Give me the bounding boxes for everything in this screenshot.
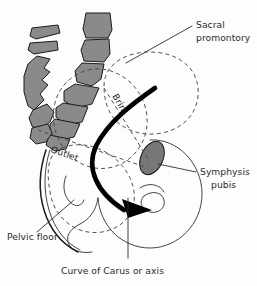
spinous-process-second <box>28 41 58 54</box>
label-symphysis-pubis-line2: pubis <box>211 179 236 190</box>
label-pelvic-floor: Pelvic floor <box>7 231 58 242</box>
vertebra-body-top <box>83 13 112 38</box>
symphysis-pubis-shape <box>135 138 169 179</box>
label-sacral-promontory-line2: promontory <box>196 32 251 43</box>
spinous-process-lamina <box>24 56 50 110</box>
label-curve-of-carus: Curve of Carus or axis <box>61 265 164 276</box>
figure-canvas: Sacral promontory Symphysis pubis Pelvic… <box>0 0 257 286</box>
labia-detail <box>140 185 164 192</box>
vertebra-body-second <box>81 39 110 62</box>
label-symphysis-pubis-line1: Symphysis <box>200 166 250 177</box>
pelvic-soft-tissue-left <box>64 176 84 206</box>
pelvis-anatomy-figure: Sacral promontory Symphysis pubis Pelvic… <box>0 0 257 286</box>
label-sacral-promontory-line1: Sacral <box>196 19 225 30</box>
vertebra-body-third <box>75 63 104 86</box>
leader-sacral-promontory <box>126 26 192 63</box>
spinous-process-upper <box>30 25 60 39</box>
leader-symphysis-pubis <box>158 164 196 172</box>
perineum-outline <box>68 198 98 253</box>
curve-of-carus-arrowhead <box>122 199 152 218</box>
